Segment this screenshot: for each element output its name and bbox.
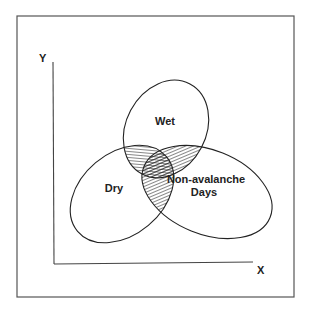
y-axis-label: Y (39, 52, 47, 64)
label-wet: Wet (155, 115, 175, 127)
venn-diagram: Y X Wet Dry Non-avalanche Days (0, 0, 310, 311)
y-axis (53, 62, 54, 264)
x-axis (54, 262, 253, 264)
set-dry (51, 125, 193, 262)
label-non-avalanche-line1: Non-avalanche (167, 173, 245, 185)
label-non-avalanche-line2: Days (191, 186, 217, 198)
overlap-wet-dry (51, 125, 193, 262)
x-axis-label: X (257, 264, 265, 276)
label-dry: Dry (105, 182, 124, 194)
